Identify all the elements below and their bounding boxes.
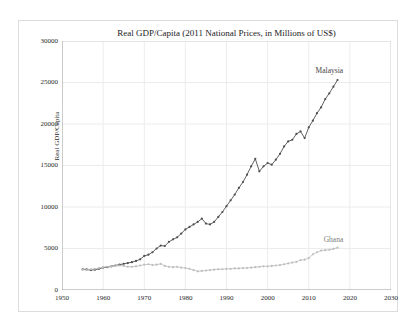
y-tick-label: 30000 <box>21 37 58 46</box>
series-marker-ghana <box>139 264 141 266</box>
series-marker-malaysia <box>328 92 330 94</box>
series-marker-ghana <box>225 268 227 270</box>
series-marker-malaysia <box>164 245 166 247</box>
series-marker-ghana <box>188 268 190 270</box>
series-marker-ghana <box>267 265 269 267</box>
series-marker-ghana <box>262 265 264 267</box>
series-marker-malaysia <box>250 165 252 167</box>
series-marker-malaysia <box>267 162 269 164</box>
series-marker-malaysia <box>299 130 301 132</box>
series-marker-ghana <box>271 265 273 267</box>
series-label-malaysia: Malaysia <box>316 66 344 75</box>
series-marker-malaysia <box>180 232 182 234</box>
y-tick-label: 20000 <box>21 120 58 129</box>
series-marker-ghana <box>332 248 334 250</box>
series-marker-ghana <box>275 264 277 266</box>
series-marker-ghana <box>193 269 195 271</box>
series-marker-malaysia <box>123 263 125 265</box>
x-tick-label: 2010 <box>292 294 326 303</box>
series-marker-ghana <box>250 266 252 268</box>
series-marker-malaysia <box>221 211 223 213</box>
series-marker-ghana <box>213 269 215 271</box>
series-marker-ghana <box>123 265 125 267</box>
series-marker-malaysia <box>197 221 199 223</box>
series-marker-malaysia <box>258 170 260 172</box>
series-marker-ghana <box>205 269 207 271</box>
series-marker-ghana <box>242 267 244 269</box>
series-marker-malaysia <box>246 174 248 176</box>
series-marker-malaysia <box>254 158 256 160</box>
series-marker-ghana <box>131 266 133 268</box>
x-tick-label: 1970 <box>127 294 161 303</box>
series-marker-malaysia <box>201 218 203 220</box>
series-marker-malaysia <box>238 187 240 189</box>
series-marker-malaysia <box>308 126 310 128</box>
series-marker-malaysia <box>143 255 145 257</box>
series-marker-ghana <box>291 262 293 264</box>
series-marker-ghana <box>102 266 104 268</box>
x-tick-label: 2030 <box>374 294 408 303</box>
chart-svg <box>62 41 391 290</box>
series-marker-malaysia <box>213 221 215 223</box>
series-marker-malaysia <box>209 223 211 225</box>
series-marker-ghana <box>197 270 199 272</box>
x-tick-label: 1980 <box>168 294 202 303</box>
series-marker-malaysia <box>147 254 149 256</box>
series-marker-ghana <box>238 267 240 269</box>
series-marker-malaysia <box>205 223 207 225</box>
series-marker-malaysia <box>275 159 277 161</box>
series-marker-ghana <box>81 269 83 271</box>
y-tick-label: 25000 <box>21 78 58 87</box>
series-marker-ghana <box>209 269 211 271</box>
series-marker-ghana <box>308 257 310 259</box>
series-marker-malaysia <box>332 86 334 88</box>
series-marker-ghana <box>151 264 153 266</box>
series-marker-ghana <box>172 266 174 268</box>
series-marker-ghana <box>221 268 223 270</box>
series-marker-malaysia <box>155 247 157 249</box>
series-marker-ghana <box>254 266 256 268</box>
series-marker-ghana <box>86 269 88 271</box>
series-marker-ghana <box>127 266 129 268</box>
series-marker-ghana <box>246 267 248 269</box>
series-marker-ghana <box>147 263 149 265</box>
series-marker-ghana <box>155 264 157 266</box>
series-marker-malaysia <box>242 181 244 183</box>
series-marker-ghana <box>135 265 137 267</box>
series-marker-malaysia <box>139 258 141 260</box>
series-marker-malaysia <box>131 261 133 263</box>
series-marker-ghana <box>160 263 162 265</box>
series-marker-malaysia <box>304 137 306 139</box>
series-line-malaysia <box>83 80 338 270</box>
series-marker-malaysia <box>324 98 326 100</box>
series-marker-malaysia <box>271 164 273 166</box>
series-marker-ghana <box>299 259 301 261</box>
series-marker-ghana <box>143 264 145 266</box>
series-marker-ghana <box>304 259 306 261</box>
chart-figure: Real GDP/Capita (2011 National Prices, i… <box>18 20 398 312</box>
x-tick-label: 1950 <box>45 294 79 303</box>
series-marker-malaysia <box>127 262 129 264</box>
series-marker-ghana <box>106 266 108 268</box>
series-marker-malaysia <box>225 205 227 207</box>
series-marker-ghana <box>94 268 96 270</box>
chart-title: Real GDP/Capita (2011 National Prices, i… <box>62 28 391 41</box>
series-marker-malaysia <box>193 223 195 225</box>
series-marker-ghana <box>316 251 318 253</box>
series-marker-ghana <box>201 270 203 272</box>
series-marker-malaysia <box>184 228 186 230</box>
series-marker-malaysia <box>176 236 178 238</box>
series-marker-malaysia <box>160 244 162 246</box>
series-marker-ghana <box>110 265 112 267</box>
series-marker-ghana <box>90 268 92 270</box>
series-marker-ghana <box>164 265 166 267</box>
x-tick-label: 1990 <box>210 294 244 303</box>
series-marker-ghana <box>168 266 170 268</box>
x-tick-label: 1960 <box>86 294 120 303</box>
series-marker-ghana <box>234 267 236 269</box>
x-tick-label: 2000 <box>251 294 285 303</box>
series-label-ghana: Ghana <box>324 234 344 243</box>
series-marker-malaysia <box>320 106 322 108</box>
series-marker-malaysia <box>316 112 318 114</box>
series-marker-malaysia <box>312 120 314 122</box>
